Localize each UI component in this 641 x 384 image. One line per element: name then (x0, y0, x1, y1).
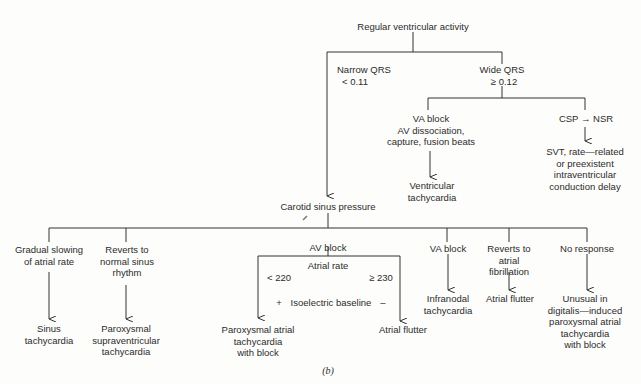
reverts-af-condition: Reverts to atrial fibrillation (487, 243, 530, 278)
narrow-qrs-label: Narrow QRS (337, 64, 391, 76)
rate-high-threshold: ≥ 230 (369, 272, 393, 284)
rate-low-threshold: < 220 (267, 272, 291, 284)
wide-qrs-threshold: ≥ 0.12 (491, 76, 517, 88)
carotid-sinus-pressure-node: Carotid sinus pressure (280, 201, 375, 213)
baseline-minus: – (380, 297, 385, 309)
psvt-result: Paroxysmal supraventricular tachycardia (92, 323, 160, 358)
isoelectric-baseline-label: Isoelectric baseline (291, 297, 372, 309)
wide-qrs-label: Wide QRS (480, 64, 525, 76)
root-node: Regular ventricular activity (357, 21, 468, 33)
flowchart-figure: Regular ventricular activity Narrow QRS … (0, 0, 641, 384)
no-response-condition: No response (560, 243, 614, 255)
digitalis-pat-result: Unusual in digitalis—induced paroxysmal … (548, 293, 622, 351)
atrial-flutter-result: Atrial flutter (486, 293, 534, 305)
atrial-flutter-av-result: Atrial flutter (379, 324, 427, 336)
gradual-slowing-condition: Gradual slowing of atrial rate (15, 244, 83, 267)
atrial-rate-label: Atrial rate (308, 260, 349, 272)
csp-nsr-condition: CSP → NSR (559, 113, 613, 125)
svt-result: SVT, rate—related or preexistent intrave… (546, 146, 624, 192)
ventricular-tachycardia-result: Ventricular tachycardia (408, 180, 457, 203)
pat-with-block-result: Paroxysmal atrial tachycardia with block (222, 324, 295, 359)
va-block-condition: VA block AV dissociation, capture, fusio… (387, 113, 475, 148)
narrow-qrs-threshold: < 0.11 (342, 76, 368, 88)
av-block-condition: AV block (310, 242, 347, 254)
figure-caption: (b) (322, 365, 334, 376)
sinus-tachycardia-result: Sinus tachycardia (25, 323, 74, 346)
reverts-nsr-condition: Reverts to normal sinus rhythm (100, 244, 154, 279)
baseline-plus: + (276, 297, 282, 309)
infranodal-tachycardia-result: Infranodal tachycardia (424, 293, 473, 316)
va-block-csp-condition: VA block (430, 243, 466, 255)
